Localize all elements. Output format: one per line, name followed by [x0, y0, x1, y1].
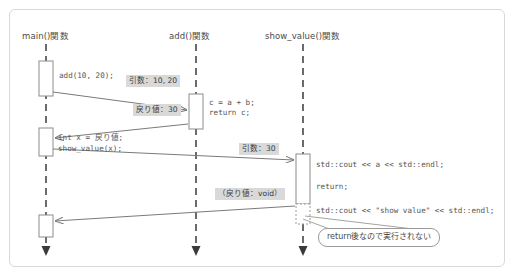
code-add-body-line2: return c;	[209, 108, 250, 119]
code-add-body-line1: c = a + b;	[209, 98, 255, 109]
code-show-value-dead-code: std::cout << "show value" << std::endl;	[316, 206, 494, 217]
message-label-call-add: 引数：10, 20	[126, 75, 180, 87]
lifeline-end-arrow-show-value	[299, 246, 308, 256]
code-show-value-body-line1: std::cout << a << std::endl;	[316, 160, 444, 171]
message-label-call-show-value: 引数：30	[239, 143, 279, 155]
activation-bar-main-after-add	[39, 128, 53, 156]
code-main-after-add-line1: int x = 戻り値;	[58, 133, 123, 144]
annotation-dead-code-note: return後なので実行されない	[318, 228, 440, 247]
activation-bar-show-value-body	[296, 154, 310, 204]
lifeline-end-arrow-main	[42, 246, 51, 256]
activation-bar-main-final	[39, 215, 53, 237]
lifeline-add	[192, 44, 201, 256]
sequence-diagram-canvas: main()関数 add()関数 show_value()関数	[0, 0, 517, 278]
code-main-after-add-line2: show_value(x);	[58, 144, 122, 155]
activation-bar-main-call-add	[39, 61, 53, 96]
code-show-value-body-line2: return;	[316, 182, 348, 193]
message-label-return-show-value: （戻り値：void）	[215, 188, 285, 200]
code-main-call-add: add(10, 20);	[59, 71, 114, 82]
message-label-return-add: 戻り値：30	[133, 104, 181, 116]
message-arrow-return-show-value	[55, 206, 295, 221]
activation-bar-add-body	[189, 94, 203, 129]
lifeline-end-arrow-add	[192, 246, 201, 256]
